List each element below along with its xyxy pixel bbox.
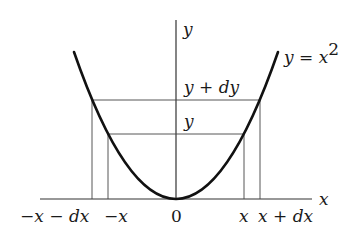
neg-x-minus-dx-label: −x − dx [20,206,90,226]
neg-x-label: −x [104,206,128,226]
y-axis-label: y [182,19,193,39]
y-label: y [183,111,194,131]
origin-label: 0 [171,206,182,226]
x-label: x [239,206,249,226]
x-plus-dx-label: x + dx [258,206,314,226]
x-axis-label: x [319,189,329,209]
curve-label: y = x2 [283,39,339,67]
y-plus-dy-label: y + dy [183,77,240,97]
parabola-diagram: y x y + dy y y = x2 −x − dx −x 0 x x + d… [0,0,363,239]
